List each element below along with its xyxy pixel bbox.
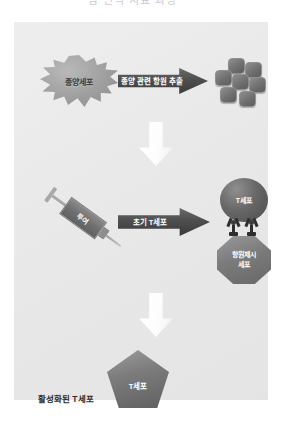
receptor-base	[247, 232, 256, 236]
syringe-needle	[106, 234, 122, 246]
tumor-cell-starburst: 종양세포	[40, 55, 118, 107]
bound-antigen-dot	[249, 220, 254, 225]
diagram-panel: 종양세포 종양 관련 항원 추출 투여 초기 T세포 T세포	[14, 22, 268, 400]
immune-synapse-group: T세포 항원제시 세포	[210, 178, 278, 284]
top-title-strip: 암 면역 치료 과정	[0, 0, 285, 14]
antigen-particle	[220, 87, 237, 103]
receptor-base	[229, 232, 238, 236]
apc-label-line2: 세포	[238, 261, 250, 269]
antigen-presenting-cell: 항원제시 세포	[217, 236, 271, 284]
bound-antigen-dot	[231, 220, 236, 225]
antigen-particle	[215, 70, 232, 86]
activated-tcell-pentagon: T세포	[107, 350, 169, 408]
syringe-icon: 투여	[36, 185, 128, 253]
tcell-round-label: T세포	[236, 195, 252, 205]
down-arrow-icon	[139, 122, 173, 166]
antigen-particle	[239, 91, 256, 107]
activated-tcell-caption: 활성화된 T세포	[38, 392, 94, 404]
tumor-cell-label: 종양세포	[65, 76, 93, 87]
down-arrow-icon	[139, 293, 173, 337]
antigen-particle-cluster	[212, 58, 270, 110]
tcell-round: T세포	[220, 178, 268, 222]
naive-tcell-arrow-label: 초기 T세포	[120, 216, 180, 227]
naive-tcell-arrow: 초기 T세포	[118, 208, 210, 236]
antigen-extraction-arrow-label: 종양 관련 항원 추출	[121, 75, 181, 86]
syringe-body: 투여	[36, 179, 128, 257]
activated-tcell-label: T세포	[129, 380, 148, 391]
antigen-extraction-arrow: 종양 관련 항원 추출	[118, 68, 208, 94]
apc-label-line1: 항원제시	[232, 251, 256, 259]
syringe-label: 투여	[75, 211, 91, 226]
page-title: 암 면역 치료 과정	[88, 0, 177, 7]
